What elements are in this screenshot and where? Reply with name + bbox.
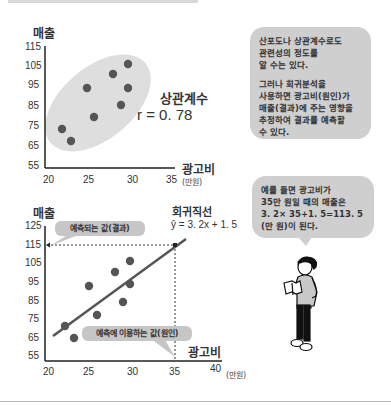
person-icon <box>284 257 317 350</box>
bottom-divider <box>0 401 391 402</box>
person-reading-illustration <box>0 0 391 406</box>
